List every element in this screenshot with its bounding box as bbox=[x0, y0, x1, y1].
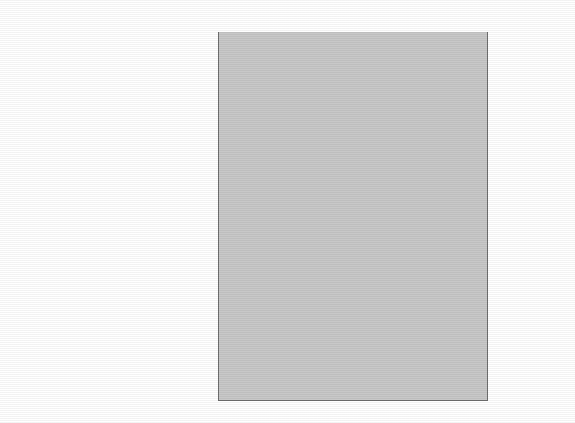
chart-container bbox=[0, 0, 575, 423]
series-lines bbox=[218, 32, 488, 400]
x-axis-line bbox=[218, 400, 488, 401]
